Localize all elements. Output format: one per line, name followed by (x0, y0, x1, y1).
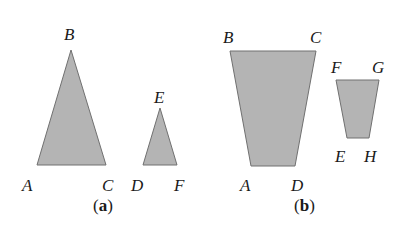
vertex-label-b: B (223, 28, 234, 47)
vertex-label-f: F (173, 176, 185, 195)
triangle-abc (37, 50, 106, 165)
similar-figures-diagram: B A C E D F (a) B C A D F G E H (b) (0, 0, 408, 227)
vertex-label-d: D (290, 176, 304, 195)
vertex-label-e: E (153, 88, 165, 107)
quadrilateral-abcd (230, 51, 316, 166)
panel-b-caption: (b) (294, 196, 315, 215)
vertex-label-a: A (239, 176, 251, 195)
triangle-def (143, 108, 177, 165)
vertex-label-e: E (334, 147, 346, 166)
vertex-label-f: F (330, 58, 342, 77)
vertex-label-d: D (130, 176, 144, 195)
vertex-label-c: C (102, 176, 114, 195)
vertex-label-h: H (363, 147, 378, 166)
vertex-label-c: C (310, 28, 322, 47)
panel-a-caption: (a) (93, 196, 113, 215)
vertex-label-b: B (64, 25, 75, 44)
panel-a: B A C E D F (a) (21, 25, 185, 215)
vertex-label-a: A (21, 176, 33, 195)
vertex-label-g: G (372, 58, 384, 77)
quadrilateral-efgh (336, 80, 379, 138)
panel-b: B C A D F G E H (b) (223, 28, 384, 215)
